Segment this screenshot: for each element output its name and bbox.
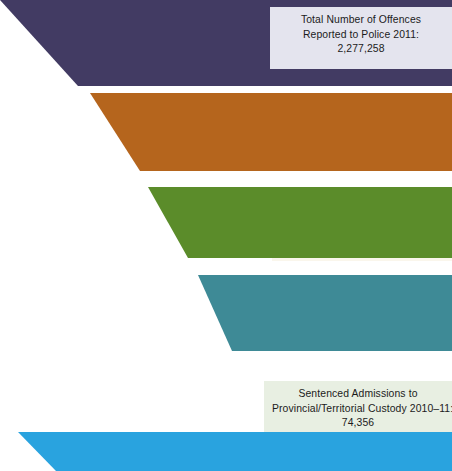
label-line-2: Provincial/Territorial Custody 2010–11: (272, 402, 444, 417)
funnel-stage-guilty-findings: Cases with guilty findings in Adult Crim… (0, 93, 452, 171)
funnel-stage-federal-jurisdiction: Warrant of Committal Admissions to Feder… (0, 275, 452, 351)
label-line-2: Reported to Police 2011: (278, 28, 444, 43)
funnel-stage-provincial-custody: Sentenced Admissions to Provincial/Terri… (0, 187, 452, 258)
funnel-chart: Total Number of Offences Reported to Pol… (0, 0, 452, 471)
label-value: 74,356 (272, 416, 444, 431)
funnel-band-shape-teal (0, 275, 452, 351)
funnel-band-shape-blue (0, 432, 452, 471)
funnel-band-shape-green (0, 187, 452, 258)
label-line-1: Total Number of Offences (278, 13, 444, 28)
funnel-stage-label-offences-reported: Total Number of Offences Reported to Pol… (270, 7, 452, 69)
label-line-1: Sentenced Admissions to (272, 387, 444, 402)
label-value: 2,277,258 (278, 42, 444, 57)
funnel-band-shape-orange (0, 93, 452, 171)
funnel-stage-offences-reported: Total Number of Offences Reported to Pol… (0, 0, 452, 86)
funnel-stage-actual-incidents: Actual Incidents Unknown (0, 432, 452, 471)
